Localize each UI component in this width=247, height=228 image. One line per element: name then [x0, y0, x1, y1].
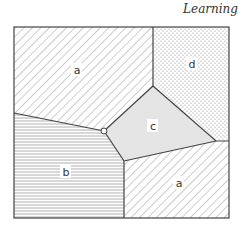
label-d: d [189, 58, 196, 71]
partition-diagram: a d c b a [0, 0, 247, 228]
label-a-top: a [74, 64, 81, 77]
label-a-bottom: a [176, 177, 183, 190]
label-c: c [150, 120, 156, 133]
label-b: b [63, 166, 70, 179]
vertex-circle [101, 128, 107, 134]
